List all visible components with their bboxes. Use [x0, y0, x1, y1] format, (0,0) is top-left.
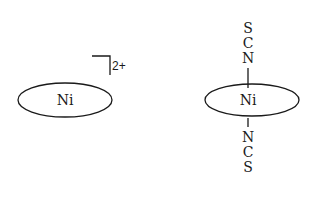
top-ligand-c: C — [243, 35, 254, 51]
charge-bracket — [92, 56, 110, 75]
left-ni-label: Ni — [57, 92, 74, 108]
left-nickel-ion: Ni 2+ — [18, 56, 126, 117]
top-ligand-n: N — [242, 50, 254, 66]
nickel-complex-diagram: Ni 2+ S C N Ni N C S — [0, 0, 316, 200]
bottom-ligand-c: C — [243, 144, 254, 160]
right-nickel-complex: S C N Ni N C S — [205, 20, 299, 175]
top-ligand-s: S — [243, 20, 253, 36]
right-ni-label: Ni — [240, 92, 257, 108]
bottom-ligand-s: S — [243, 159, 253, 175]
bottom-ligand-n: N — [242, 129, 254, 145]
charge-label: 2+ — [112, 59, 126, 73]
